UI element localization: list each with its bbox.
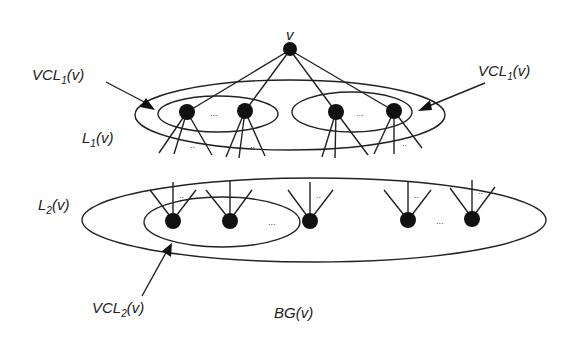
l1-node <box>328 104 344 120</box>
vcl1-left-label: VCL1(v) <box>32 66 84 86</box>
vcl1-right-label: VCL1(v) <box>478 62 530 82</box>
arrowhead-vcl1-left <box>140 98 155 110</box>
graph-diagram: ... ... .. .. .. .. .. .. .. .. .. ... .… <box>0 0 579 351</box>
ellipsis-small: .. <box>402 138 407 148</box>
arrowhead-vcl2 <box>162 243 172 257</box>
l2-node <box>400 212 416 228</box>
l2-node <box>222 213 238 229</box>
ellipsis-small: .. <box>478 186 483 196</box>
root-node <box>283 42 297 56</box>
ellipsis-small: .. <box>237 190 242 200</box>
l2-node <box>165 213 181 229</box>
l1-node <box>179 104 195 120</box>
diagram-canvas: ... ... .. .. .. .. .. .. .. .. .. ... .… <box>0 0 579 351</box>
vcl2-label: VCL2(v) <box>92 299 144 319</box>
root-label: v <box>286 26 295 43</box>
ellipsis-l1-left: ... <box>210 108 218 118</box>
ellipsis-small: .. <box>179 190 184 200</box>
ellipsis-small: .. <box>316 190 321 200</box>
bg-label: BG(v) <box>274 304 313 321</box>
arrowhead-vcl1-right <box>418 100 432 111</box>
ellipsis-l2: ... <box>268 217 276 227</box>
ellipsis-small: .. <box>190 140 195 150</box>
l1-label: L1(v) <box>82 129 113 149</box>
ellipsis-small: .. <box>250 140 255 150</box>
l1-node <box>386 103 402 119</box>
l1-node <box>237 103 253 119</box>
l2-label: L2(v) <box>38 196 69 216</box>
ellipsis-small: .. <box>414 190 419 200</box>
ellipsis-l2: ... <box>436 216 444 226</box>
l2-node <box>302 213 318 229</box>
l2-node <box>464 211 480 227</box>
ellipsis-l1-right: ... <box>356 108 364 118</box>
ellipsis-small: .. <box>340 140 345 150</box>
vcl1-left-ellipse <box>158 96 278 132</box>
